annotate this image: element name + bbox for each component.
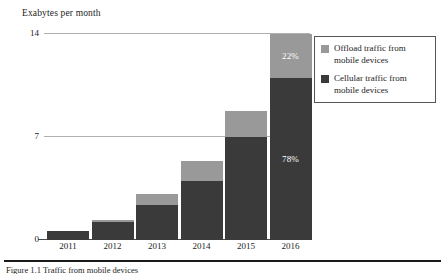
bar-segment-cellular-2011[interactable] (47, 231, 89, 240)
legend-label: Cellular traffic from mobile devices (334, 73, 430, 96)
x-tick-label-2014: 2014 (181, 241, 223, 251)
x-tick-label-2012: 2012 (92, 241, 134, 251)
chart-legend: Offload traffic from mobile devicesCellu… (314, 36, 436, 103)
x-axis-tick-labels: 201120122013201420152016 (44, 241, 312, 257)
bar-segment-cellular-2012[interactable] (92, 222, 134, 240)
y-tick-label-14: 14 (30, 29, 39, 38)
x-tick-label-2016: 2016 (270, 241, 312, 251)
bar-2013[interactable] (136, 194, 178, 240)
bar-2011[interactable] (47, 231, 89, 240)
x-tick-label-2015: 2015 (225, 241, 267, 251)
cellular-swatch (321, 75, 329, 83)
figure-container: Exabytes per month 0714 22%78% 201120122… (0, 0, 445, 274)
bar-label-cellular-2016: 78% (270, 154, 312, 164)
bar-segment-cellular-2015[interactable] (225, 137, 267, 240)
bar-segment-offload-2015[interactable] (225, 111, 267, 137)
bar-segment-offload-2014[interactable] (181, 161, 223, 182)
y-axis-tick-labels: 0714 (20, 30, 39, 240)
offload-swatch (321, 45, 329, 53)
legend-item-offload[interactable]: Offload traffic from mobile devices (321, 43, 430, 66)
bar-2015[interactable] (225, 111, 267, 240)
y-axis-title: Exabytes per month (22, 8, 101, 18)
bar-label-offload-2016: 22% (270, 51, 312, 61)
x-tick-label-2011: 2011 (47, 241, 89, 251)
bar-segment-cellular-2014[interactable] (181, 181, 223, 240)
bar-segment-offload-2012[interactable] (92, 220, 134, 222)
bar-2016[interactable]: 22%78% (270, 34, 312, 240)
x-tick-label-2013: 2013 (136, 241, 178, 251)
legend-label: Offload traffic from mobile devices (334, 43, 430, 66)
legend-item-cellular[interactable]: Cellular traffic from mobile devices (321, 73, 430, 96)
y-tick-label-7: 7 (35, 132, 40, 141)
bottom-rule (4, 260, 441, 262)
figure-caption: Figure 1.1 Traffic from mobile devices (6, 265, 443, 274)
bar-segment-offload-2013[interactable] (136, 194, 178, 205)
bar-2012[interactable] (92, 220, 134, 240)
plot-area: 22%78% (44, 30, 312, 240)
bar-2014[interactable] (181, 161, 223, 240)
bar-segment-cellular-2013[interactable] (136, 205, 178, 240)
